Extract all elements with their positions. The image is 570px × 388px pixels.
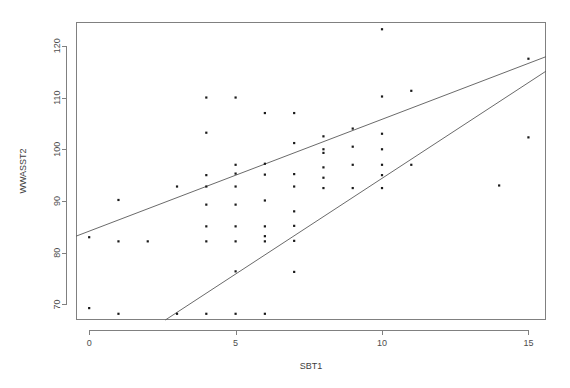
data-point bbox=[205, 132, 207, 134]
plot-frame bbox=[77, 23, 546, 320]
data-point bbox=[293, 185, 295, 187]
plot-border bbox=[77, 23, 546, 320]
data-point bbox=[410, 90, 412, 92]
data-point bbox=[381, 133, 383, 135]
x-axis-title: SBT1 bbox=[300, 361, 323, 371]
data-point bbox=[264, 163, 266, 165]
data-point bbox=[205, 96, 207, 98]
data-point bbox=[264, 174, 266, 176]
data-point bbox=[381, 174, 383, 176]
y-axis-title: WWASST2 bbox=[18, 148, 28, 193]
data-point bbox=[322, 148, 324, 150]
data-point bbox=[322, 166, 324, 168]
data-point bbox=[322, 187, 324, 189]
data-point bbox=[352, 127, 354, 129]
x-axis: 051015 bbox=[87, 330, 534, 348]
data-point bbox=[322, 135, 324, 137]
data-point bbox=[381, 28, 383, 30]
data-point bbox=[352, 187, 354, 189]
data-point bbox=[381, 95, 383, 97]
y-tick-label: 80 bbox=[52, 248, 62, 258]
data-point bbox=[147, 240, 149, 242]
y-tick-label: 110 bbox=[52, 90, 62, 104]
data-points bbox=[88, 28, 529, 315]
upper-fit-line bbox=[76, 57, 546, 237]
y-tick-label: 70 bbox=[52, 299, 62, 309]
data-point bbox=[527, 58, 529, 60]
data-point bbox=[293, 210, 295, 212]
lower-fit-line bbox=[165, 71, 546, 320]
data-point bbox=[527, 136, 529, 138]
data-point bbox=[293, 142, 295, 144]
data-point bbox=[88, 236, 90, 238]
data-point bbox=[264, 313, 266, 315]
data-point bbox=[264, 235, 266, 237]
data-point bbox=[117, 199, 119, 201]
data-point bbox=[205, 313, 207, 315]
data-point bbox=[293, 173, 295, 175]
y-axis: 708090100110120 bbox=[52, 38, 67, 309]
data-point bbox=[117, 313, 119, 315]
data-point bbox=[205, 204, 207, 206]
data-point bbox=[322, 152, 324, 154]
x-tick-label: 0 bbox=[87, 338, 92, 348]
y-tick-label: 100 bbox=[52, 142, 62, 157]
data-point bbox=[88, 307, 90, 309]
data-point bbox=[293, 271, 295, 273]
data-point bbox=[205, 225, 207, 227]
data-point bbox=[205, 240, 207, 242]
data-point bbox=[176, 185, 178, 187]
data-point bbox=[205, 185, 207, 187]
data-point bbox=[205, 174, 207, 176]
y-tick-label: 90 bbox=[52, 196, 62, 206]
data-point bbox=[234, 225, 236, 227]
data-point bbox=[264, 225, 266, 227]
data-point bbox=[264, 199, 266, 201]
x-tick-label: 10 bbox=[377, 338, 387, 348]
data-point bbox=[264, 240, 266, 242]
y-tick-label: 120 bbox=[52, 38, 62, 53]
data-point bbox=[410, 164, 412, 166]
data-point bbox=[264, 112, 266, 114]
data-point bbox=[381, 187, 383, 189]
data-point bbox=[381, 148, 383, 150]
data-point bbox=[234, 164, 236, 166]
data-point bbox=[293, 112, 295, 114]
data-point bbox=[352, 164, 354, 166]
data-point bbox=[117, 240, 119, 242]
data-point bbox=[293, 240, 295, 242]
data-point bbox=[322, 177, 324, 179]
data-point bbox=[234, 313, 236, 315]
data-point bbox=[352, 146, 354, 148]
plot-canvas: 051015 708090100110120 SBT1 WWASST2 bbox=[0, 0, 570, 388]
scatter-plot-figure: 051015 708090100110120 SBT1 WWASST2 bbox=[0, 0, 570, 388]
data-point bbox=[293, 225, 295, 227]
x-tick-label: 5 bbox=[233, 338, 238, 348]
data-point bbox=[381, 164, 383, 166]
data-point bbox=[234, 172, 236, 174]
data-point bbox=[234, 96, 236, 98]
fit-lines bbox=[76, 57, 546, 320]
data-point bbox=[234, 270, 236, 272]
data-point bbox=[498, 184, 500, 186]
x-tick-label: 15 bbox=[523, 338, 533, 348]
data-point bbox=[234, 204, 236, 206]
data-point bbox=[176, 313, 178, 315]
data-point bbox=[234, 185, 236, 187]
data-point bbox=[234, 240, 236, 242]
